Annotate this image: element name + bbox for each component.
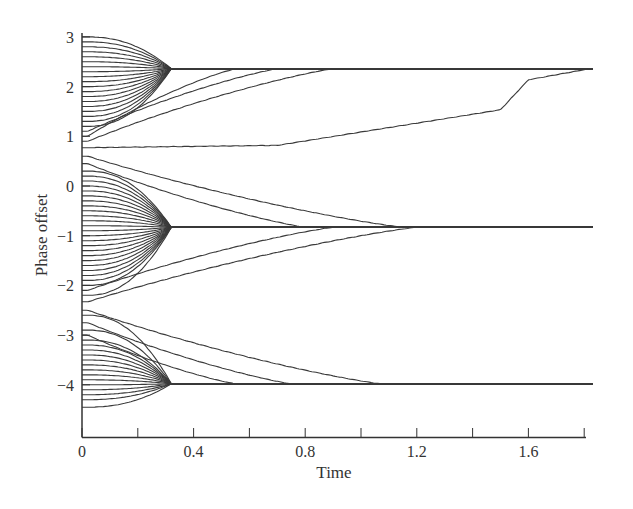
x-tick-label: 1.6	[518, 443, 538, 460]
y-tick-label: 0	[66, 178, 74, 195]
trajectory-line	[82, 380, 593, 384]
x-axis-ticks: 00.40.81.21.6	[78, 428, 584, 460]
x-tick-label: 0.4	[184, 443, 204, 460]
x-tick-label: 0.8	[295, 443, 315, 460]
y-tick-label: 1	[66, 128, 74, 145]
y-tick-label: −3	[57, 327, 74, 344]
y-tick-label: 2	[66, 79, 74, 96]
phase-offset-chart: 00.40.81.21.6 3210−1−2−3−4 Time Phase of…	[0, 0, 633, 509]
trajectory-line	[82, 384, 593, 400]
x-tick-label: 1.2	[407, 443, 427, 460]
y-tick-label: −2	[57, 277, 74, 294]
y-tick-label: −1	[57, 228, 74, 245]
x-axis-title: Time	[316, 463, 351, 482]
x-tick-label: 0	[78, 443, 86, 460]
y-tick-label: −4	[57, 377, 74, 394]
y-axis-title: Phase offset	[32, 194, 51, 277]
trajectory-lines	[82, 37, 593, 407]
y-tick-label: 3	[66, 29, 74, 46]
